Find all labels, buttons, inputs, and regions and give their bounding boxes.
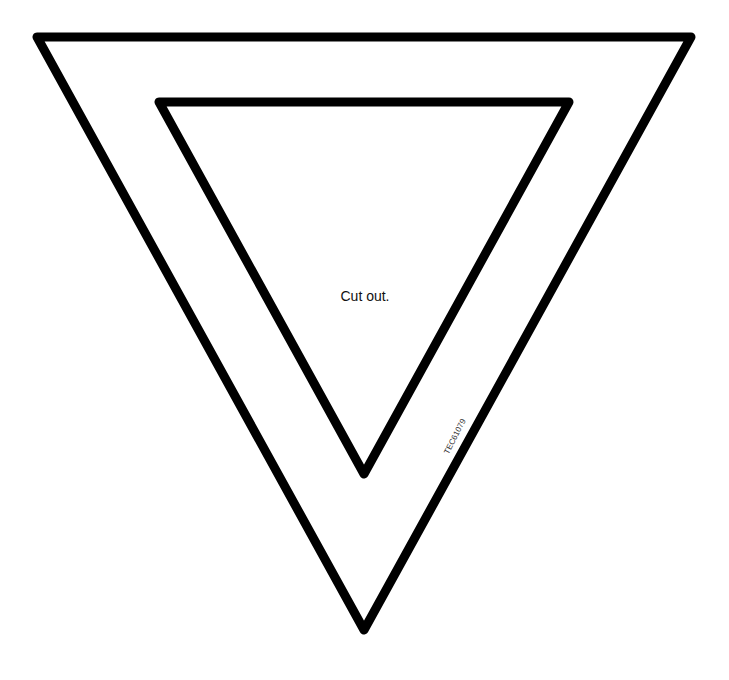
outer-triangle [37,37,691,630]
triangle-cutout-template: Cut out. TEC61079 [0,0,729,680]
triangle-outlines [0,0,729,680]
cut-out-instruction: Cut out. [320,288,410,304]
